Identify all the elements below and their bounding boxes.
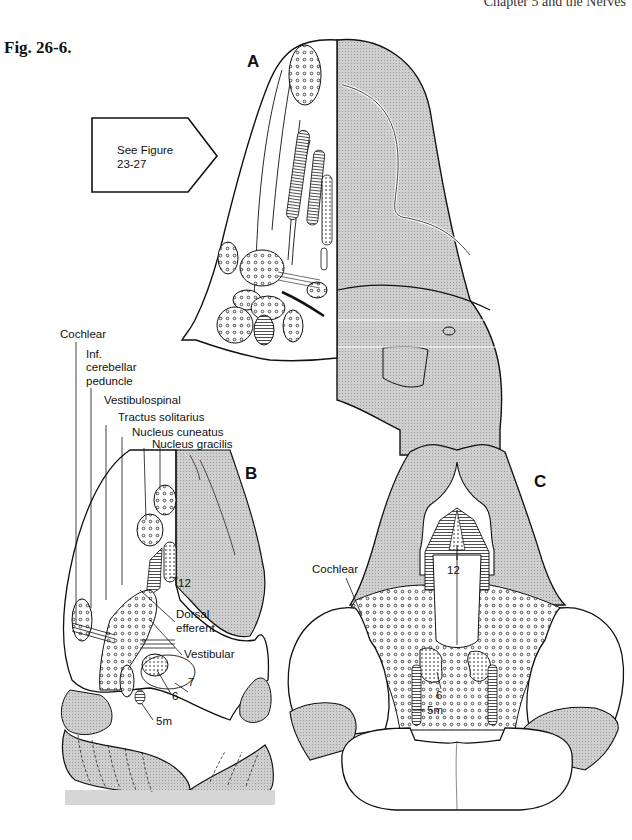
label-c-5m: 5m [427, 704, 443, 716]
label-b-dorsal-efferent-1: Dorsal [176, 608, 209, 620]
label-b-nucleus-cuneatus: Nucleus cuneatus [132, 426, 224, 438]
label-b-tractus-solitarius: Tractus solitarius [118, 411, 205, 423]
panel-c: C Cochlear 12 6 5m [288, 445, 623, 810]
panel-a-letter: A [247, 52, 259, 71]
label-b-inf-cerebellar-3: peduncle [86, 375, 133, 387]
panel-b-letter: B [245, 464, 257, 483]
label-b-vestibular: Vestibular [184, 648, 235, 660]
label-b-5m: 5m [156, 715, 172, 727]
panel-c-letter: C [534, 472, 546, 491]
figure-canvas: A See Figure 23-27 [0, 0, 632, 840]
label-b-inf-cerebellar-1: Inf. [86, 348, 102, 360]
label-b-7: 7 [188, 676, 194, 688]
label-c-6: 6 [436, 689, 442, 701]
panel-a-shaded-half [337, 40, 502, 455]
label-b-dorsal-efferent-2: efferent [176, 622, 216, 634]
label-b-inf-cerebellar-2: cerebellar [86, 361, 137, 373]
label-c-cochlear: Cochlear [312, 563, 358, 575]
label-c-12: 12 [447, 564, 460, 576]
callout-line-2: 23-27 [117, 158, 146, 170]
callout-line-1: See Figure [117, 144, 173, 156]
panel-a: A See Figure 23-27 [92, 40, 502, 455]
label-b-cochlear: Cochlear [60, 328, 106, 340]
label-b-nucleus-gracilis: Nucleus gracilis [152, 438, 233, 450]
label-b-6: 6 [172, 690, 178, 702]
panel-b: B [60, 328, 275, 805]
label-b-vestibulospinal: Vestibulospinal [104, 394, 181, 406]
label-b-12: 12 [178, 577, 191, 589]
see-figure-callout: See Figure 23-27 [92, 118, 217, 192]
